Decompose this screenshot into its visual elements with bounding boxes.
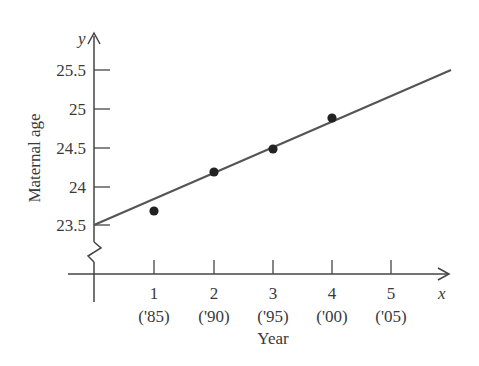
data-points — [149, 113, 336, 215]
y-axis-title: Maternal age — [25, 113, 44, 202]
x-axis-title: Year — [257, 329, 289, 348]
data-point — [327, 113, 336, 122]
x-tick-sublabel: ('85) — [138, 307, 169, 326]
y-tick-label: 24 — [69, 178, 87, 197]
x-tick-label: 4 — [328, 284, 337, 303]
y-tick-label: 23.5 — [56, 216, 86, 235]
data-point — [268, 144, 277, 153]
y-variable-label: y — [76, 29, 86, 48]
y-tick-label: 24.5 — [56, 139, 86, 158]
y-axis: 23.5 24 24.5 25 25.5 y Maternal age — [25, 29, 110, 302]
x-variable-label: x — [437, 284, 446, 303]
x-tick-label: 5 — [387, 284, 396, 303]
x-tick-sublabel: ('90) — [198, 307, 229, 326]
x-tick-label: 1 — [150, 284, 159, 303]
chart: 23.5 24 24.5 25 25.5 y Maternal age 1 2 … — [0, 0, 479, 366]
y-tick-label: 25 — [69, 100, 86, 119]
x-tick-sublabel: ('05) — [375, 307, 406, 326]
data-point — [149, 206, 158, 215]
axis-break-icon — [88, 242, 101, 262]
x-tick-sublabel: ('00) — [316, 307, 347, 326]
x-tick-label: 3 — [269, 284, 278, 303]
x-axis: 1 2 3 4 5 ('85) ('90) ('95) ('00) ('05) … — [68, 260, 449, 348]
x-tick-label: 2 — [210, 284, 219, 303]
y-tick-label: 25.5 — [56, 61, 86, 80]
data-point — [209, 167, 218, 176]
x-tick-sublabel: ('95) — [257, 307, 288, 326]
